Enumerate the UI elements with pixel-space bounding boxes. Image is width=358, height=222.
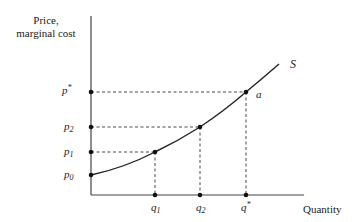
y-tick-p-star: p*: [62, 84, 72, 96]
x-tick-q2: q2: [196, 201, 206, 213]
x-axis-label: Quantity: [303, 203, 342, 215]
y-axis-label: Price, marginal cost: [6, 14, 86, 40]
x-tick-q1: q1: [151, 201, 161, 213]
dashed-guides: [91, 92, 246, 195]
x-tick-q-star: q*: [241, 201, 251, 213]
y-tick-p0: p0: [64, 168, 74, 180]
y-axis-label-line2: marginal cost: [6, 27, 86, 40]
point-label-a: a: [256, 88, 262, 100]
supply-curve: [91, 64, 279, 175]
y-tick-p2: p2: [64, 120, 74, 132]
y-tick-p1: p1: [64, 145, 74, 157]
points: [89, 90, 249, 198]
y-axis-label-line1: Price,: [6, 14, 86, 27]
curve-label-s: S: [290, 58, 296, 70]
